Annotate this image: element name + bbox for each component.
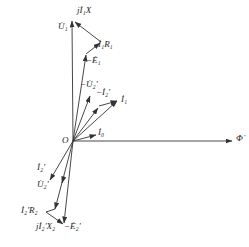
label-negE2p: −Ė₂′ [64, 222, 81, 231]
label-I2pR2: İ₂′R₂ [21, 206, 38, 215]
phasor-U1-arrow [72, 21, 73, 141]
label-jI1X: jİ₁X [77, 6, 91, 15]
phasor-diagram: jİ₁X U̇₁ İ₁R₁ −Ė₁ −U̇₂′ −İ₂′ İ₁ O İ₀ Φ̇ … [0, 0, 249, 247]
label-I1: İ₁ [121, 95, 127, 104]
label-I1R1: İ₁R₁ [98, 40, 113, 49]
label-U2p: U̇₂′ [37, 180, 49, 189]
label-Phi: Φ̇ [236, 134, 243, 143]
phasor-I2pR2-arrow [46, 209, 55, 212]
label-U1: U̇₁ [58, 22, 68, 31]
phasor-negI2p-arrow [73, 108, 98, 141]
label-negE1: −Ė₁ [86, 56, 101, 65]
label-jI2pX2: jİ₂′X₂ [36, 222, 55, 231]
phasor-negE1-arrow [73, 55, 86, 141]
label-I0: İ₀ [98, 128, 104, 137]
label-I2p: İ₂′ [37, 163, 45, 172]
phasor-U2p-arrow [55, 141, 73, 209]
label-negI2p: −İ₂′ [96, 88, 110, 97]
label-origin-O: O [62, 136, 69, 145]
phasor-negU2p-arrow [73, 96, 90, 141]
